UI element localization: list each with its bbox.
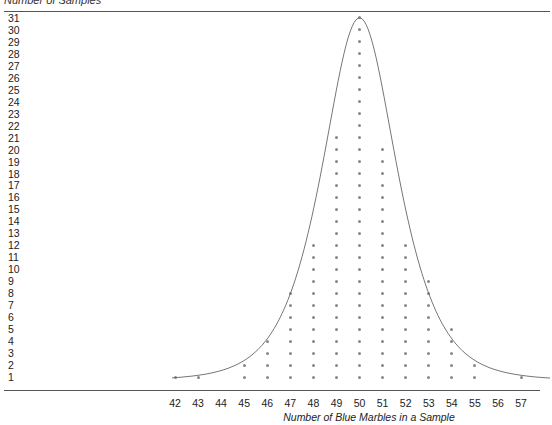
x-axis-title: Number of Blue Marbles in a Sample <box>0 411 552 423</box>
distribution-curve <box>0 0 552 425</box>
